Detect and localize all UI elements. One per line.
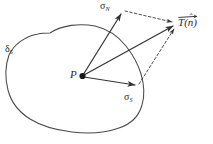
point-p-label: P: [70, 69, 77, 80]
surface-element-label: δS: [5, 44, 13, 55]
unit-normal-with-hat: ˆn: [188, 17, 194, 28]
stress-decomposition-figure: σN σS δS P T(ˆn): [0, 0, 213, 144]
normal-stress-subscript: N: [105, 5, 109, 12]
traction-vector: [84, 26, 173, 75]
shear-stress-subscript: S: [129, 96, 132, 103]
shear-stress-label: σS: [124, 92, 132, 103]
normal-stress-label: σN: [100, 1, 110, 12]
construction-line-normal-to-traction: [125, 11, 172, 22]
traction-close-paren: ): [193, 16, 197, 28]
shear-stress-vector: [84, 77, 135, 85]
point-p-marker: [79, 73, 85, 79]
traction-label: T(ˆn): [178, 17, 197, 28]
hat-accent-icon: ˆ: [189, 14, 192, 23]
normal-stress-vector: [83, 14, 121, 75]
construction-line-shear-to-traction: [139, 29, 174, 84]
surface-element-subscript: S: [10, 48, 13, 55]
traction-vector-notation: T(ˆn): [178, 17, 197, 28]
